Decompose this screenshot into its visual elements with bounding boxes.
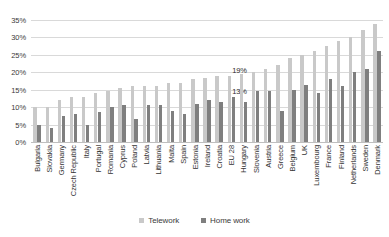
bar-group[interactable]: 19%13%: [225, 20, 237, 142]
bar-homework[interactable]: [110, 107, 113, 142]
bar-homework[interactable]: [207, 100, 210, 142]
bar-telework[interactable]: [82, 97, 85, 142]
bar-group[interactable]: [262, 20, 274, 142]
bar-telework[interactable]: [228, 76, 231, 142]
bar-homework[interactable]: [74, 114, 77, 142]
bar-telework[interactable]: [58, 100, 61, 142]
bar-telework[interactable]: [252, 72, 255, 142]
bar-group[interactable]: [80, 20, 92, 142]
bar-telework[interactable]: [337, 41, 340, 142]
bar-group[interactable]: [274, 20, 286, 142]
bar-homework[interactable]: [50, 128, 53, 142]
bar-homework[interactable]: [256, 91, 259, 142]
bar-homework[interactable]: [280, 111, 283, 142]
bar-homework[interactable]: [62, 116, 65, 142]
bar-telework[interactable]: [118, 88, 121, 142]
bar-telework[interactable]: [155, 86, 158, 142]
bar-telework[interactable]: [325, 46, 328, 142]
bar-homework[interactable]: [147, 105, 150, 142]
bar-group[interactable]: [31, 20, 43, 142]
x-axis-tick: Finland: [335, 143, 347, 211]
bar-group[interactable]: [322, 20, 334, 142]
bar-homework[interactable]: [268, 91, 271, 142]
bar-homework[interactable]: [86, 125, 89, 142]
bar-telework[interactable]: [94, 93, 97, 142]
x-axis-tick-label: Greece: [275, 145, 284, 169]
bar-group[interactable]: [55, 20, 67, 142]
bar-group[interactable]: [286, 20, 298, 142]
bar-group[interactable]: [116, 20, 128, 142]
bar-telework[interactable]: [215, 76, 218, 142]
x-axis-tick: Hungary: [237, 143, 249, 211]
bar-telework[interactable]: [349, 37, 352, 142]
plot-area: 19%13%: [31, 20, 383, 142]
bar-telework[interactable]: [373, 24, 376, 143]
bar-group[interactable]: [213, 20, 225, 142]
bar-group[interactable]: [189, 20, 201, 142]
bar-group[interactable]: [152, 20, 164, 142]
bar-telework[interactable]: [264, 69, 267, 142]
bar-group[interactable]: [250, 20, 262, 142]
bar-telework[interactable]: [203, 78, 206, 142]
bar-telework[interactable]: [361, 30, 364, 142]
bar-group[interactable]: [104, 20, 116, 142]
bar-telework[interactable]: [276, 65, 279, 142]
bar-homework[interactable]: [219, 102, 222, 142]
bar-homework[interactable]: [304, 85, 307, 143]
bar-group[interactable]: [165, 20, 177, 142]
bar-group[interactable]: [359, 20, 371, 142]
x-axis-tick-label: Croatia: [215, 145, 224, 168]
bar-telework[interactable]: [313, 51, 316, 142]
bar-group[interactable]: [371, 20, 383, 142]
bar-telework[interactable]: [143, 86, 146, 142]
x-axis-tick: Lithuania: [152, 143, 164, 211]
x-axis-tick-label: Latvia: [142, 145, 151, 164]
bar-group[interactable]: [237, 20, 249, 142]
bar-homework[interactable]: [122, 105, 125, 142]
bar-telework[interactable]: [240, 74, 243, 142]
bar-telework[interactable]: [131, 86, 134, 142]
bar-telework[interactable]: [106, 91, 109, 142]
legend-item[interactable]: Telework: [139, 216, 179, 225]
bar-group[interactable]: [310, 20, 322, 142]
bar-group[interactable]: [67, 20, 79, 142]
bar-group[interactable]: [347, 20, 359, 142]
bar-group[interactable]: [92, 20, 104, 142]
x-axis-tick-label: France: [324, 145, 333, 168]
bar-group[interactable]: [298, 20, 310, 142]
bar-homework[interactable]: [365, 69, 368, 142]
bar-homework[interactable]: [292, 90, 295, 142]
bar-group[interactable]: [140, 20, 152, 142]
bar-homework[interactable]: [353, 72, 356, 142]
bar-homework[interactable]: [341, 86, 344, 142]
x-axis-tick: Spain: [177, 143, 189, 211]
bar-telework[interactable]: [179, 83, 182, 142]
x-axis-tick-label: Estonia: [190, 145, 199, 169]
bar-homework[interactable]: [37, 125, 40, 142]
bar-homework[interactable]: [244, 102, 247, 142]
bar-homework[interactable]: [317, 93, 320, 142]
bar-homework[interactable]: [195, 104, 198, 142]
bar-homework[interactable]: [183, 114, 186, 142]
bar-chart: 0%5%10%15%20%25%30%35% 19%13% BulgariaSl…: [0, 0, 389, 237]
legend-item[interactable]: Home work: [201, 216, 250, 225]
bar-homework[interactable]: [159, 105, 162, 142]
bar-homework[interactable]: [232, 97, 235, 142]
bar-homework[interactable]: [377, 51, 380, 142]
bar-group[interactable]: [128, 20, 140, 142]
bar-telework[interactable]: [167, 83, 170, 142]
bar-group[interactable]: [335, 20, 347, 142]
bar-telework[interactable]: [300, 55, 303, 142]
bar-group[interactable]: [43, 20, 55, 142]
bar-telework[interactable]: [46, 107, 49, 142]
bar-telework[interactable]: [70, 97, 73, 142]
bar-homework[interactable]: [171, 111, 174, 142]
bar-group[interactable]: [177, 20, 189, 142]
bar-homework[interactable]: [329, 79, 332, 142]
bar-homework[interactable]: [134, 119, 137, 142]
bar-telework[interactable]: [191, 79, 194, 142]
bar-telework[interactable]: [33, 107, 36, 142]
bar-group[interactable]: [201, 20, 213, 142]
bar-telework[interactable]: [288, 58, 291, 142]
bar-homework[interactable]: [98, 112, 101, 142]
